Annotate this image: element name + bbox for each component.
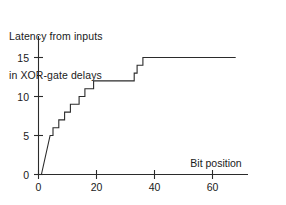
- x-tick-label-20: 20: [91, 181, 103, 193]
- x-tick-label-40: 40: [149, 181, 161, 193]
- y-axis: 15 10 5 0: [17, 36, 43, 181]
- plot-area: 15 10 5 0 0 20 40 60 Bit position: [0, 0, 286, 205]
- x-axis-label: Bit position: [190, 157, 242, 169]
- y-tick-label-0: 0: [23, 169, 29, 181]
- y-tick-label-10: 10: [17, 91, 29, 103]
- x-axis: 0 20 40 60 Bit position: [34, 157, 248, 193]
- y-tick-label-5: 5: [23, 130, 29, 142]
- x-tick-label-60: 60: [207, 181, 219, 193]
- y-tick-label-15: 15: [17, 52, 29, 64]
- x-tick-label-0: 0: [36, 181, 42, 193]
- chart-container: Latency from inputs in XOR-gate delays 1…: [0, 0, 286, 205]
